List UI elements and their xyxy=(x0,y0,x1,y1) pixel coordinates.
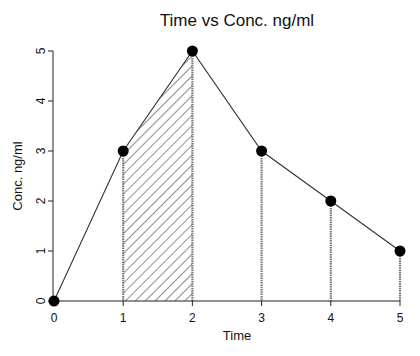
x-tick-label: 5 xyxy=(397,311,404,325)
data-point xyxy=(118,146,129,157)
x-tick-label: 3 xyxy=(258,311,265,325)
data-point xyxy=(325,196,336,207)
hatched-area xyxy=(123,51,192,301)
x-tick-label: 0 xyxy=(51,311,58,325)
chart: Time vs Conc. ng/ml Time Conc. ng/ml 012… xyxy=(0,0,420,356)
y-tick-label: 1 xyxy=(34,247,48,254)
y-axis-label: Conc. ng/ml xyxy=(10,141,25,210)
data-point xyxy=(49,296,60,307)
y-tick-label: 3 xyxy=(34,147,48,154)
plot-area: 012345012345 xyxy=(34,46,406,326)
data-point xyxy=(395,246,406,257)
x-tick-label: 4 xyxy=(327,311,334,325)
x-axis-label: Time xyxy=(223,328,251,343)
y-tick-label: 4 xyxy=(34,97,48,104)
y-tick-label: 0 xyxy=(34,297,48,304)
y-tick-label: 2 xyxy=(34,197,48,204)
data-point xyxy=(187,46,198,57)
x-tick-label: 1 xyxy=(120,311,127,325)
y-tick-label: 5 xyxy=(34,47,48,54)
x-tick-label: 2 xyxy=(189,311,196,325)
series-line xyxy=(54,51,400,301)
data-point xyxy=(256,146,267,157)
chart-title: Time vs Conc. ng/ml xyxy=(160,11,314,30)
